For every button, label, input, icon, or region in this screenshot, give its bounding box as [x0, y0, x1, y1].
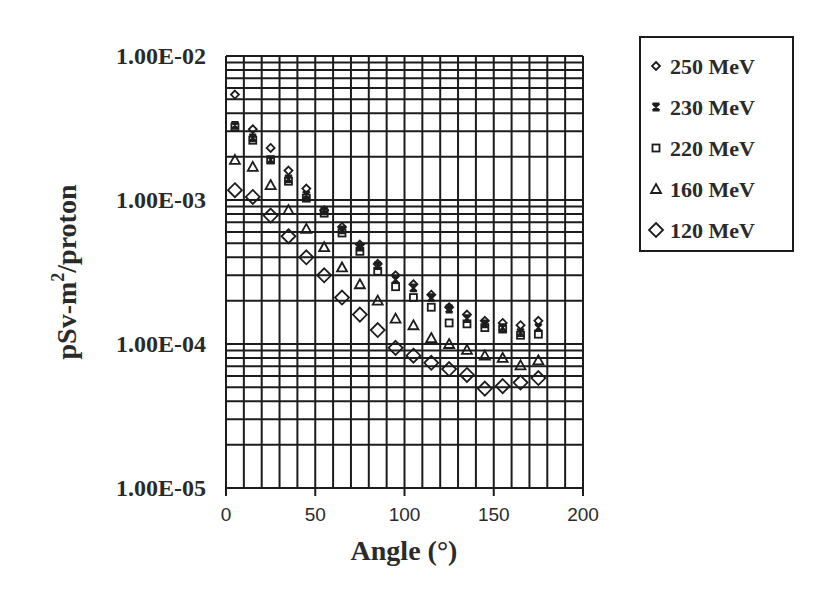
y-tick-label: 1.00E-04 — [116, 331, 206, 357]
legend-label: 120 MeV — [670, 218, 755, 243]
data-point — [266, 180, 276, 189]
grid — [226, 56, 583, 496]
data-point — [267, 156, 274, 163]
data-point — [355, 279, 365, 288]
data-point — [392, 283, 399, 290]
x-axis-title: Angle (°) — [351, 535, 458, 566]
data-point — [285, 175, 292, 182]
data-point — [284, 167, 292, 175]
y-axis-title: pSv-m2/proton — [48, 184, 82, 359]
chart: 1.00E-021.00E-031.00E-041.00E-05 0501001… — [0, 0, 824, 603]
legend: 250 MeV230 MeV220 MeV160 MeV120 MeV — [640, 37, 793, 251]
data-point — [478, 382, 492, 396]
data-point — [391, 314, 401, 323]
data-point — [264, 209, 278, 223]
data-point — [353, 308, 367, 322]
data-point — [248, 162, 258, 171]
data-point — [267, 144, 275, 152]
x-tick-label: 50 — [305, 504, 326, 525]
data-point — [460, 368, 474, 382]
data-point — [428, 304, 435, 311]
y-axis-title-sup: 2 — [48, 273, 68, 282]
legend-label: 230 MeV — [670, 95, 755, 120]
data-point — [516, 360, 526, 369]
x-axis-ticks: 050100150200 — [221, 504, 599, 525]
y-axis-ticks: 1.00E-021.00E-031.00E-041.00E-05 — [116, 43, 206, 501]
data-point — [517, 321, 525, 329]
y-tick-label: 1.00E-03 — [116, 187, 206, 213]
data-point — [371, 323, 385, 337]
data-point — [410, 284, 417, 291]
legend-label: 160 MeV — [670, 177, 755, 202]
data-point — [408, 320, 418, 329]
x-tick-label: 100 — [389, 504, 421, 525]
data-point — [426, 333, 436, 342]
data-point — [533, 355, 543, 364]
y-tick-label: 1.00E-05 — [116, 475, 206, 501]
x-tick-label: 0 — [221, 504, 232, 525]
data-point — [389, 341, 403, 355]
data-point — [337, 262, 347, 271]
data-point — [428, 294, 435, 301]
data-point — [392, 276, 399, 283]
y-axis-title-base: pSv-m — [51, 282, 82, 360]
data-point — [442, 362, 456, 376]
data-point — [228, 183, 242, 197]
data-point — [446, 319, 453, 326]
x-tick-label: 150 — [478, 504, 510, 525]
data-point — [531, 371, 545, 385]
data-point — [496, 379, 510, 393]
x-tick-label: 200 — [567, 504, 599, 525]
y-tick-label: 1.00E-02 — [116, 43, 206, 69]
legend-label: 250 MeV — [670, 54, 755, 79]
data-point — [231, 91, 239, 99]
data-point — [462, 345, 472, 354]
y-axis-title-rest: /proton — [51, 184, 82, 274]
data-point — [249, 134, 256, 141]
data-point — [335, 291, 349, 305]
data-point — [246, 190, 260, 204]
legend-label: 220 MeV — [670, 136, 755, 161]
